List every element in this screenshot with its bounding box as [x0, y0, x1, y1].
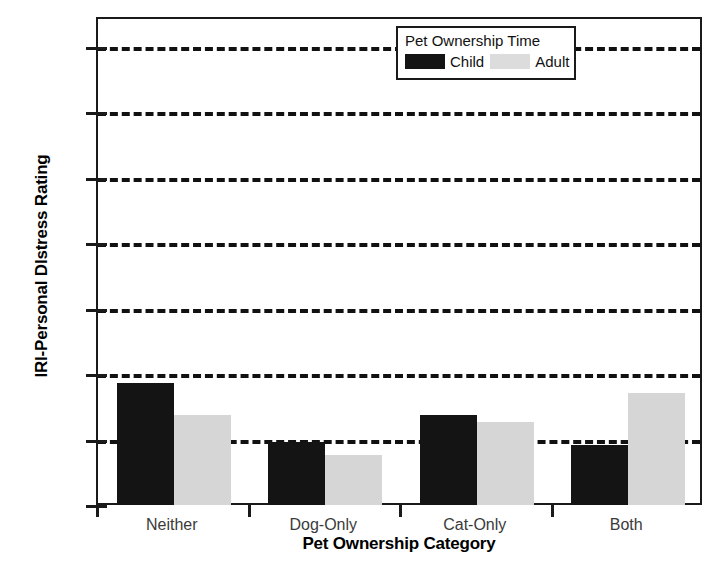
x-tick-label: Dog-Only — [243, 516, 403, 534]
y-tick-mark — [86, 243, 107, 246]
bar-cat-only-child — [420, 415, 477, 505]
bar-dog-only-child — [268, 442, 325, 505]
y-tick-mark — [86, 178, 107, 181]
legend: Pet Ownership Time ChildAdult — [396, 26, 576, 80]
x-tick-label: Neither — [92, 516, 252, 534]
bar-neither-child — [117, 383, 174, 505]
gridline — [98, 112, 700, 116]
plot-area — [96, 17, 702, 505]
y-tick-mark — [86, 440, 107, 443]
legend-entry-adult: Adult — [490, 53, 569, 70]
gridline — [98, 374, 700, 378]
x-tick-mark — [96, 503, 99, 517]
y-axis-title: IRI-Personal DIstress Rating — [32, 136, 52, 396]
gridline — [98, 178, 700, 182]
y-tick-mark — [86, 112, 107, 115]
legend-swatch-child — [405, 54, 445, 69]
bar-dog-only-adult — [325, 455, 382, 505]
legend-title: Pet Ownership Time — [405, 31, 567, 50]
legend-entries: ChildAdult — [405, 53, 567, 70]
x-tick-mark — [399, 503, 402, 517]
bar-chart: IRI-Personal DIstress Rating 2.52.72.93.… — [0, 0, 718, 576]
legend-entry-child: Child — [405, 53, 484, 70]
bar-both-adult — [628, 393, 685, 506]
gridline — [98, 309, 700, 313]
bar-cat-only-adult — [477, 422, 534, 505]
x-tick-label: Cat-Only — [395, 516, 555, 534]
bar-both-child — [571, 445, 628, 505]
x-axis-title: Pet Ownership Category — [96, 534, 702, 554]
legend-label-child: Child — [450, 53, 484, 70]
y-tick-mark — [86, 47, 107, 50]
legend-label-adult: Adult — [535, 53, 569, 70]
x-tick-label: Both — [546, 516, 706, 534]
x-tick-mark — [248, 503, 251, 517]
gridline — [98, 243, 700, 247]
bar-neither-adult — [174, 415, 231, 505]
y-tick-mark — [86, 374, 107, 377]
legend-swatch-adult — [490, 54, 530, 69]
y-tick-mark — [86, 309, 107, 312]
x-tick-mark — [551, 503, 554, 517]
